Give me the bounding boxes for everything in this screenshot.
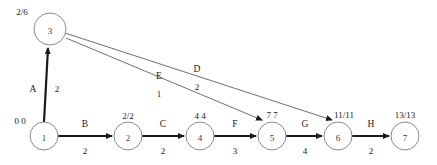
node-time-2: 2/2: [122, 111, 134, 121]
node-label-3: 3: [48, 26, 53, 36]
edge-weight-c: 2: [161, 146, 166, 156]
edge-label-h: H: [368, 119, 375, 129]
node-time-6: 11/11: [334, 110, 354, 120]
node-time-4: 4 4: [194, 111, 206, 121]
edge-weight-d: 2: [195, 82, 200, 92]
network-diagram-svg: A2B2C2D2E1F3G4H2 10 022/232/644 457 7611…: [0, 0, 437, 165]
edge-line-e: [66, 38, 262, 120]
edge-label-d: D: [194, 64, 201, 74]
edge-weight-f: 3: [233, 146, 238, 156]
node-label-4: 4: [198, 133, 203, 143]
edge-label-c: C: [160, 119, 166, 129]
node-time-5: 7 7: [266, 110, 278, 120]
node-time-1: 0 0: [14, 116, 26, 126]
node-label-1: 1: [42, 133, 47, 143]
edge-line-a: [44, 48, 48, 122]
node-label-2: 2: [126, 133, 131, 143]
edge-weight-h: 2: [369, 146, 374, 156]
edge-weight-b: 2: [83, 146, 88, 156]
edge-weight-g: 4: [303, 146, 308, 156]
edge-label-a: A: [30, 84, 37, 94]
edge-label-e: E: [156, 71, 162, 81]
edge-weight-e: 1: [157, 89, 162, 99]
edge-label-f: F: [232, 119, 237, 129]
node-time-3: 2/6: [16, 7, 28, 17]
nodes-layer: 10 022/232/644 457 7611/11713/13: [14, 7, 419, 150]
edge-line-d: [65, 33, 332, 120]
edge-label-g: G: [302, 119, 309, 129]
node-label-7: 7: [403, 133, 408, 143]
node-label-5: 5: [270, 133, 275, 143]
node-time-7: 13/13: [395, 110, 416, 120]
edge-label-b: B: [82, 119, 88, 129]
edge-weight-a: 2: [55, 84, 60, 94]
network-diagram-canvas: A2B2C2D2E1F3G4H2 10 022/232/644 457 7611…: [0, 0, 437, 165]
node-label-6: 6: [336, 133, 341, 143]
